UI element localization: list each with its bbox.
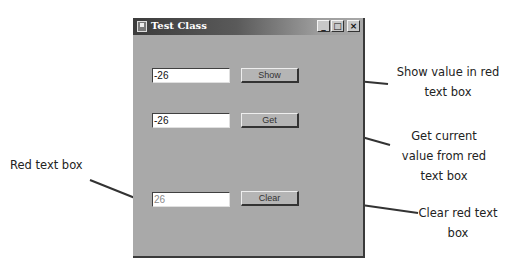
annotation-show: Show value in red text box — [394, 62, 502, 102]
red-textbox[interactable]: 26 — [152, 192, 230, 207]
app-icon[interactable] — [137, 21, 147, 32]
clear-button[interactable]: Clear — [241, 191, 299, 206]
annotation-get: Get current value from red text box — [394, 126, 494, 186]
window-title: Test Class — [151, 20, 207, 31]
get-button[interactable]: Get — [241, 113, 299, 128]
show-button[interactable]: Show — [241, 68, 299, 83]
annotation-clear: Clear red text box — [418, 203, 498, 243]
close-button[interactable]: × — [347, 20, 360, 32]
annotation-red-box: Red text box — [10, 155, 110, 175]
minimize-button[interactable]: _ — [317, 20, 330, 32]
maximize-button[interactable]: □ — [331, 20, 344, 32]
test-class-window: Test Class _ □ × -26 Show -26 Get 26 Cle… — [133, 18, 365, 258]
show-value-textbox[interactable]: -26 — [152, 68, 230, 83]
title-bar[interactable]: Test Class _ □ × — [133, 18, 363, 35]
get-value-textbox[interactable]: -26 — [152, 113, 230, 128]
